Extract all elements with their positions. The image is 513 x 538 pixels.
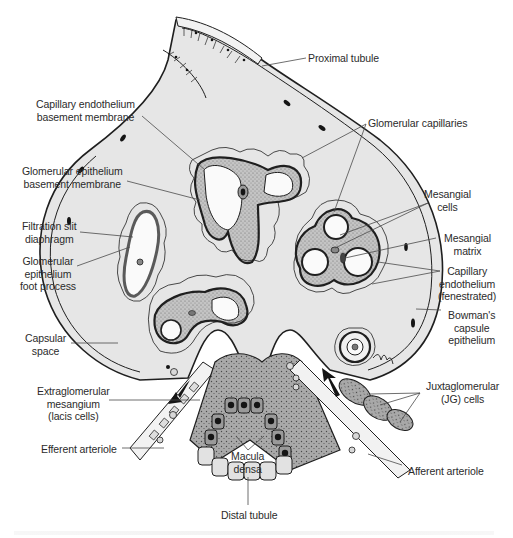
label-juxtaglomerular-cells: Juxtaglomerular (JG) cells (426, 380, 499, 405)
label-efferent-arteriole: Efferent arteriole (41, 443, 117, 456)
label-distal-tubule: Distal tubule (221, 509, 277, 522)
renal-corpuscle-diagram: Proximal tubule Capillary endothelium ba… (0, 0, 513, 538)
label-glomerular-capillaries: Glomerular capillaries (368, 117, 467, 130)
label-glomerular-epithelium-basement-membrane: Glomerular epithelium basement membrane (22, 165, 123, 190)
clipped-caption-residue (14, 531, 494, 535)
label-macula-densa: Macula densa (231, 450, 264, 475)
label-bowmans-capsule-epithelium: Bowman's capsule epithelium (448, 309, 495, 347)
label-mesangial-cells: Mesangial cells (424, 188, 471, 213)
label-capillary-endothelium-basement-membrane: Capillary endothelium basement membrane (36, 98, 135, 123)
label-proximal-tubule: Proximal tubule (308, 52, 379, 65)
label-afferent-arteriole: Afferent arteriole (408, 465, 484, 478)
label-mesangial-matrix: Mesangial matrix (444, 232, 491, 257)
label-glomerular-epithelium-foot-process: Glomerular epithelium foot process (20, 255, 76, 293)
label-capillary-endothelium-fenestrated: Capillary endothelium (fenestrated) (438, 265, 496, 303)
label-filtration-slit-diaphragm: Filtration slit diaphragm (22, 220, 77, 245)
label-extraglomerular-mesangium: Extraglomerular mesangium (lacis cells) (37, 385, 110, 423)
label-capsular-space: Capsular space (25, 332, 66, 357)
